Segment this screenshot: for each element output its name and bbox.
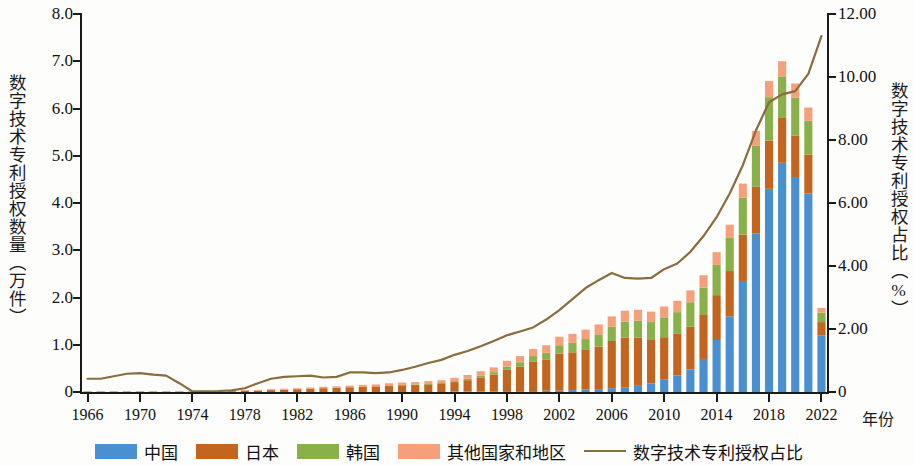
bar-segment-2011-韩国[interactable] bbox=[673, 312, 681, 334]
bar-segment-1990-韩国[interactable] bbox=[398, 385, 406, 386]
bar-stack-1992[interactable] bbox=[424, 381, 432, 392]
bar-segment-2016-中国[interactable] bbox=[739, 281, 747, 392]
bar-segment-2001-其他国家和地区[interactable] bbox=[542, 345, 550, 353]
bar-segment-1998-日本[interactable] bbox=[503, 370, 511, 391]
bar-stack-1996[interactable] bbox=[477, 371, 485, 392]
legend-item-4[interactable]: 其他国家和地区 bbox=[398, 439, 566, 464]
bar-segment-2003-其他国家和地区[interactable] bbox=[568, 334, 576, 343]
bar-segment-2002-日本[interactable] bbox=[555, 354, 563, 391]
bar-stack-1978[interactable] bbox=[241, 390, 249, 392]
bar-segment-1981-日本[interactable] bbox=[280, 390, 288, 392]
bar-segment-2013-中国[interactable] bbox=[699, 359, 707, 392]
bar-segment-2005-韩国[interactable] bbox=[595, 334, 603, 346]
bar-stack-2002[interactable] bbox=[555, 337, 563, 392]
legend-item-2[interactable]: 日本 bbox=[196, 439, 279, 464]
bar-stack-2022[interactable] bbox=[817, 308, 825, 392]
bar-segment-1979-其他国家和地区[interactable] bbox=[254, 390, 262, 391]
bar-segment-2005-日本[interactable] bbox=[595, 347, 603, 390]
bar-segment-1991-日本[interactable] bbox=[411, 385, 419, 392]
bar-segment-2011-其他国家和地区[interactable] bbox=[673, 301, 681, 312]
bar-segment-2015-中国[interactable] bbox=[726, 316, 734, 392]
bar-segment-2000-其他国家和地区[interactable] bbox=[529, 349, 537, 356]
bar-segment-2012-日本[interactable] bbox=[686, 327, 694, 370]
bar-stack-2020[interactable] bbox=[791, 83, 799, 392]
bar-segment-1993-其他国家和地区[interactable] bbox=[437, 380, 445, 383]
bar-segment-2019-日本[interactable] bbox=[778, 118, 786, 163]
bar-segment-1967-其他国家和地区[interactable] bbox=[97, 391, 105, 392]
bar-segment-1986-日本[interactable] bbox=[346, 387, 354, 392]
bar-segment-2013-日本[interactable] bbox=[699, 315, 707, 359]
bar-stack-2000[interactable] bbox=[529, 349, 537, 392]
bar-segment-2011-中国[interactable] bbox=[673, 375, 681, 392]
bar-segment-1986-其他国家和地区[interactable] bbox=[346, 386, 354, 388]
ratio-line-series[interactable] bbox=[88, 36, 822, 391]
bar-segment-2015-韩国[interactable] bbox=[726, 238, 734, 271]
bar-segment-2012-其他国家和地区[interactable] bbox=[686, 290, 694, 302]
bar-segment-1980-日本[interactable] bbox=[267, 390, 275, 392]
bar-segment-1973-其他国家和地区[interactable] bbox=[175, 391, 183, 392]
bar-segment-1991-韩国[interactable] bbox=[411, 384, 419, 385]
bar-segment-1982-日本[interactable] bbox=[293, 389, 301, 392]
bar-stack-1993[interactable] bbox=[437, 380, 445, 392]
bar-segment-2012-中国[interactable] bbox=[686, 369, 694, 392]
bar-segment-1995-其他国家和地区[interactable] bbox=[464, 375, 472, 379]
bar-stack-2004[interactable] bbox=[581, 330, 589, 392]
bar-segment-2017-日本[interactable] bbox=[752, 186, 760, 233]
bar-segment-2004-中国[interactable] bbox=[581, 390, 589, 392]
bar-segment-1984-日本[interactable] bbox=[319, 388, 327, 392]
bar-stack-2012[interactable] bbox=[686, 290, 694, 392]
bar-segment-2014-韩国[interactable] bbox=[713, 265, 721, 295]
bar-segment-2021-日本[interactable] bbox=[804, 155, 812, 194]
bar-segment-1998-韩国[interactable] bbox=[503, 366, 511, 369]
bar-stack-1973[interactable] bbox=[175, 391, 183, 392]
bar-segment-2001-日本[interactable] bbox=[542, 359, 550, 390]
bar-segment-1992-韩国[interactable] bbox=[424, 384, 432, 385]
bar-segment-1999-韩国[interactable] bbox=[516, 362, 524, 366]
bar-stack-2010[interactable] bbox=[660, 306, 668, 392]
bar-segment-2008-其他国家和地区[interactable] bbox=[634, 310, 642, 321]
bar-segment-2004-日本[interactable] bbox=[581, 350, 589, 390]
bar-segment-2014-其他国家和地区[interactable] bbox=[713, 252, 721, 265]
bar-stack-1979[interactable] bbox=[254, 390, 262, 392]
bar-stack-1989[interactable] bbox=[385, 383, 393, 392]
bar-stack-1983[interactable] bbox=[306, 388, 314, 392]
bar-segment-2017-中国[interactable] bbox=[752, 234, 760, 392]
bar-segment-2007-日本[interactable] bbox=[621, 338, 629, 388]
bar-stack-1995[interactable] bbox=[464, 375, 472, 392]
bar-segment-1999-其他国家和地区[interactable] bbox=[516, 356, 524, 362]
bar-stack-2013[interactable] bbox=[699, 275, 707, 392]
bar-segment-1989-其他国家和地区[interactable] bbox=[385, 383, 393, 385]
bar-segment-1985-日本[interactable] bbox=[332, 388, 340, 392]
bar-segment-2009-韩国[interactable] bbox=[647, 322, 655, 340]
bar-stack-2009[interactable] bbox=[647, 312, 655, 392]
bar-stack-2007[interactable] bbox=[621, 311, 629, 392]
bar-segment-2021-其他国家和地区[interactable] bbox=[804, 108, 812, 121]
bar-segment-1988-其他国家和地区[interactable] bbox=[372, 384, 380, 386]
bar-segment-2020-日本[interactable] bbox=[791, 135, 799, 177]
bar-segment-2003-日本[interactable] bbox=[568, 352, 576, 390]
bar-segment-1996-日本[interactable] bbox=[477, 377, 485, 391]
bar-segment-2006-其他国家和地区[interactable] bbox=[608, 316, 616, 326]
bar-segment-1979-日本[interactable] bbox=[254, 391, 262, 392]
bar-segment-1987-日本[interactable] bbox=[359, 387, 367, 392]
bar-stack-1984[interactable] bbox=[319, 387, 327, 392]
bar-segment-1994-其他国家和地区[interactable] bbox=[450, 378, 458, 381]
legend-item-1[interactable]: 中国 bbox=[95, 439, 178, 464]
bar-segment-1996-韩国[interactable] bbox=[477, 375, 485, 377]
bar-segment-2022-日本[interactable] bbox=[817, 322, 825, 335]
bar-stack-1999[interactable] bbox=[516, 356, 524, 392]
bar-stack-2017[interactable] bbox=[752, 131, 760, 392]
bar-segment-2003-中国[interactable] bbox=[568, 390, 576, 392]
bar-segment-2021-中国[interactable] bbox=[804, 194, 812, 392]
bar-segment-2022-其他国家和地区[interactable] bbox=[817, 308, 825, 313]
bar-segment-2008-日本[interactable] bbox=[634, 338, 642, 386]
bar-segment-2004-其他国家和地区[interactable] bbox=[581, 330, 589, 339]
bar-stack-2005[interactable] bbox=[595, 324, 603, 392]
bar-segment-1996-其他国家和地区[interactable] bbox=[477, 371, 485, 375]
bar-segment-2009-中国[interactable] bbox=[647, 384, 655, 393]
bar-stack-2001[interactable] bbox=[542, 345, 550, 392]
bar-segment-1966-其他国家和地区[interactable] bbox=[83, 391, 91, 392]
bar-segment-2017-韩国[interactable] bbox=[752, 146, 760, 187]
bar-stack-1967[interactable] bbox=[97, 391, 105, 392]
bar-segment-1968-其他国家和地区[interactable] bbox=[110, 391, 118, 392]
